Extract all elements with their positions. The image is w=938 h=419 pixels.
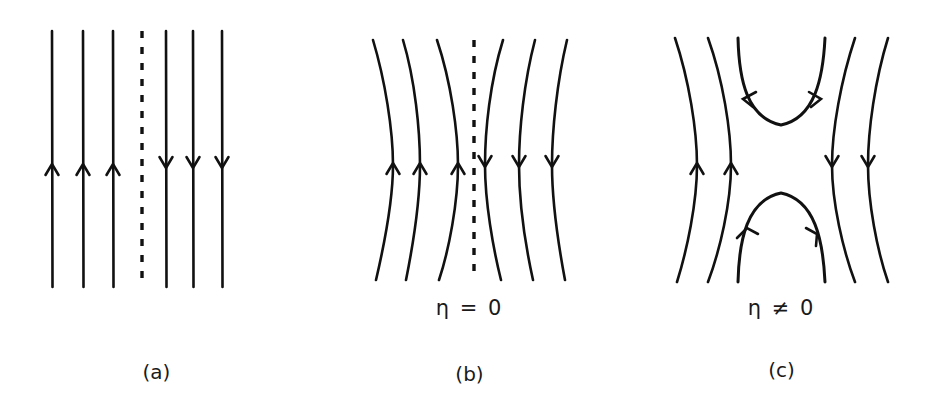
field-line-a-5	[193, 31, 194, 287]
eta-label-b: η = 0	[313, 296, 626, 320]
field-line-c-2	[708, 38, 731, 282]
field-line-b-3	[437, 40, 458, 280]
field-line-b-2	[403, 40, 420, 280]
field-line-a-1	[52, 31, 53, 287]
field-line-b-1	[373, 40, 393, 280]
panel-b-svg	[313, 0, 626, 419]
arrow-lower-right-c	[806, 228, 817, 246]
field-line-a-4	[166, 31, 167, 287]
panel-a-svg	[0, 0, 313, 419]
field-line-a-2	[83, 31, 84, 287]
field-line-a-3	[113, 31, 114, 287]
panel-a: (a)	[0, 0, 313, 419]
panel-c: η ≠ 0 (c)	[625, 0, 938, 419]
field-line-a-6	[222, 31, 223, 287]
separatrix-lower-c	[738, 193, 825, 282]
separatrix-upper-c	[738, 38, 825, 125]
panel-caption-c: (c)	[625, 358, 938, 382]
eta-label-c: η ≠ 0	[625, 296, 938, 320]
panel-caption-b: (b)	[313, 362, 626, 386]
panel-b: η = 0 (b)	[313, 0, 626, 419]
field-line-b-6	[552, 40, 567, 280]
field-line-c-1	[675, 38, 697, 282]
arrow-lower-left-c	[737, 228, 758, 238]
panel-caption-a: (a)	[0, 360, 313, 384]
reconnection-figure: (a) η = 0 (b)	[0, 0, 938, 419]
panel-c-svg	[625, 0, 938, 419]
field-line-b-5	[519, 40, 535, 280]
